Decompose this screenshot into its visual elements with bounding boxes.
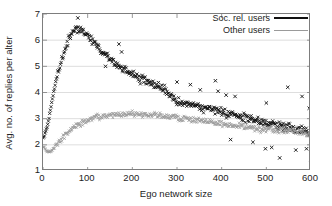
chart-figure: Avg. no. of replies per alter 7 6 5 4 3 … (0, 0, 332, 206)
y-tick-label-4: 4 (0, 86, 40, 97)
plot-area (42, 13, 310, 170)
x-tick-label-0: 0 (22, 172, 62, 183)
x-tick-label-500: 500 (245, 172, 285, 183)
legend-entry-other-users: Other users (188, 24, 308, 36)
legend-label-soc-rel-users: Soc. rel. users (212, 13, 274, 23)
x-tick-label-400: 400 (201, 172, 241, 183)
x-axis-title: Ego network size (42, 188, 310, 199)
y-tick-label-6: 6 (0, 34, 40, 45)
x-tick-label-100: 100 (67, 172, 107, 183)
legend-swatch-black-line-icon (274, 17, 308, 19)
x-tick-label-200: 200 (111, 172, 151, 183)
plot-canvas (43, 14, 310, 170)
y-tick-label-2: 2 (0, 138, 40, 149)
y-tick-label-5: 5 (0, 60, 40, 71)
x-tick-label-300: 300 (156, 172, 196, 183)
y-tick-label-3: 3 (0, 112, 40, 123)
legend: Soc. rel. users Other users (188, 12, 308, 36)
legend-swatch-gray-line-icon (274, 30, 308, 31)
legend-label-other-users: Other users (223, 25, 274, 35)
y-tick-label-7: 7 (0, 8, 40, 19)
legend-entry-soc-rel-users: Soc. rel. users (188, 12, 308, 24)
x-tick-label-600: 600 (290, 172, 330, 183)
